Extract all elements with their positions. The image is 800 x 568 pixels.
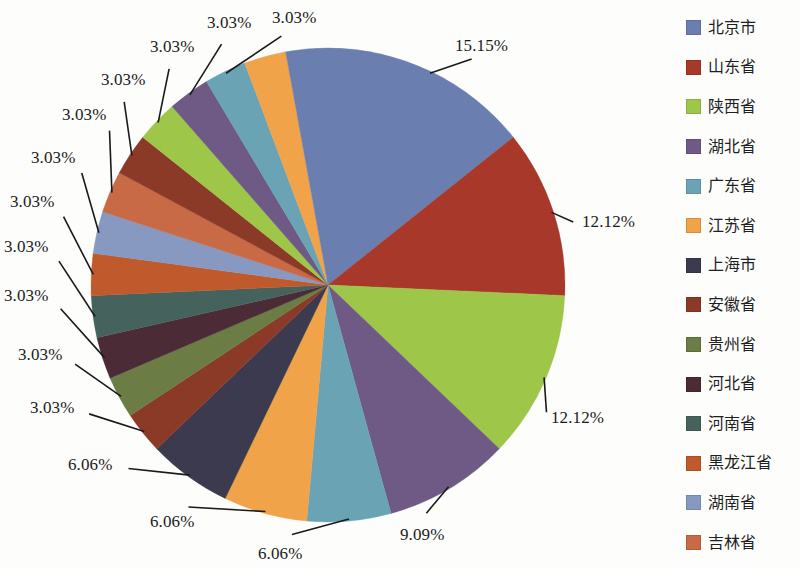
label-leader-line	[430, 59, 472, 73]
legend-swatch-icon	[686, 337, 701, 352]
slice-percent-label: 12.12%	[551, 408, 604, 428]
slice-percent-label: 3.03%	[272, 8, 316, 28]
legend-item[interactable]: 上海市	[686, 246, 800, 286]
legend-item[interactable]: 河北省	[686, 364, 800, 404]
legend-item-label: 山东省	[708, 59, 756, 75]
legend-swatch-icon	[686, 495, 701, 510]
legend-item-label: 北京市	[708, 20, 756, 36]
legend-item-label: 安徽省	[708, 297, 756, 313]
label-leader-line	[59, 261, 95, 316]
label-leader-line	[64, 217, 94, 275]
slice-percent-label: 3.03%	[10, 192, 54, 212]
legend-item[interactable]: 江苏省	[686, 206, 800, 246]
legend-swatch-icon	[686, 139, 701, 154]
legend-swatch-icon	[686, 179, 701, 194]
legend-item-label: 湖南省	[708, 495, 756, 511]
legend-item[interactable]: 吉林省	[686, 523, 800, 563]
legend-item[interactable]: 河南省	[686, 404, 800, 444]
legend-swatch-icon	[686, 20, 701, 35]
slice-percent-label: 3.03%	[4, 286, 48, 306]
chart-plot-area: 15.15%12.12%12.12%9.09%6.06%6.06%6.06%3.…	[0, 0, 676, 568]
legend-item[interactable]: 北京市	[686, 8, 800, 48]
legend-swatch-icon	[686, 60, 701, 75]
legend-item-label: 湖北省	[708, 139, 756, 155]
legend-swatch-icon	[686, 99, 701, 114]
slice-percent-label: 6.06%	[68, 455, 112, 475]
label-leader-line	[82, 173, 99, 233]
slice-percent-label: 12.12%	[582, 212, 635, 232]
legend-item-label: 吉林省	[708, 535, 756, 551]
label-leader-line	[124, 102, 132, 156]
pie-slices-group	[91, 48, 565, 522]
legend-item[interactable]: 黑龙江省	[686, 444, 800, 484]
slice-percent-label: 15.15%	[455, 36, 508, 56]
pie-chart-page: 15.15%12.12%12.12%9.09%6.06%6.06%6.06%3.…	[0, 0, 800, 568]
label-leader-line	[110, 131, 112, 193]
slice-percent-label: 6.06%	[150, 512, 194, 532]
slice-percent-label: 3.03%	[30, 398, 74, 418]
legend-swatch-icon	[686, 416, 701, 431]
legend-item-label: 陕西省	[708, 99, 756, 115]
legend-item[interactable]: 山东省	[686, 48, 800, 88]
legend-swatch-icon	[686, 456, 701, 471]
legend-item-label: 河北省	[708, 376, 756, 392]
legend-item-label: 上海市	[708, 257, 756, 273]
legend-item[interactable]: 广东省	[686, 166, 800, 206]
slice-percent-label: 3.03%	[4, 237, 48, 257]
legend-swatch-icon	[686, 218, 701, 233]
slice-percent-label: 3.03%	[62, 105, 106, 125]
slice-percent-label: 3.03%	[101, 70, 145, 90]
legend-item[interactable]: 陕西省	[686, 87, 800, 127]
legend-swatch-icon	[686, 377, 701, 392]
slice-percent-label: 3.03%	[31, 148, 75, 168]
slice-percent-label: 9.09%	[400, 525, 444, 545]
legend-item-label: 河南省	[708, 416, 756, 432]
legend-item[interactable]: 贵州省	[686, 325, 800, 365]
legend-swatch-icon	[686, 258, 701, 273]
slice-percent-label: 3.03%	[207, 13, 251, 33]
slice-percent-label: 3.03%	[150, 37, 194, 57]
legend-item-label: 贵州省	[708, 337, 756, 353]
legend-item-label: 广东省	[708, 178, 756, 194]
slice-percent-label: 3.03%	[18, 345, 62, 365]
legend-item-label: 江苏省	[708, 218, 756, 234]
chart-legend: 北京市山东省陕西省湖北省广东省江苏省上海市安徽省贵州省河北省河南省黑龙江省湖南省…	[686, 8, 800, 564]
legend-swatch-icon	[686, 297, 701, 312]
legend-item[interactable]: 安徽省	[686, 285, 800, 325]
legend-item-label: 黑龙江省	[708, 455, 772, 471]
legend-item[interactable]: 湖北省	[686, 127, 800, 167]
slice-percent-label: 6.06%	[258, 544, 302, 564]
label-leader-line	[544, 377, 546, 412]
legend-item[interactable]: 湖南省	[686, 483, 800, 523]
legend-swatch-icon	[686, 535, 701, 550]
